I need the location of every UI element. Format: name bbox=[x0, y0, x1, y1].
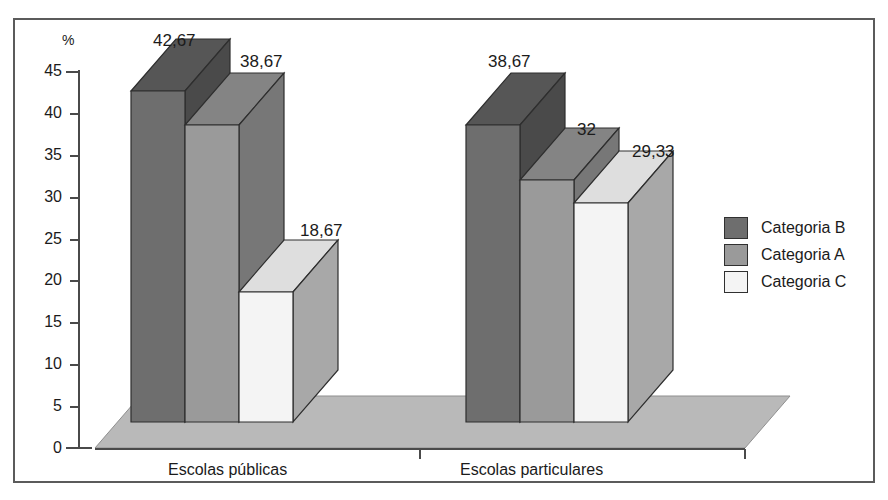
bar-group2-categoria-c bbox=[574, 151, 673, 422]
y-tick-label-0: 0 bbox=[28, 440, 62, 456]
y-tick-label-10: 10 bbox=[28, 356, 62, 372]
y-tick-label-5: 5 bbox=[28, 398, 62, 414]
y-tick-label-30: 30 bbox=[28, 189, 62, 205]
legend-label-categoria-b: Categoria B bbox=[761, 219, 846, 237]
y-tick-label-45: 45 bbox=[28, 63, 62, 79]
y-tick-label-40: 40 bbox=[28, 105, 62, 121]
legend-swatch-categoria-a-icon bbox=[724, 244, 748, 266]
value-label-group2-categoria-a: 32 bbox=[577, 121, 596, 138]
legend-item-categoria-b[interactable]: Categoria B bbox=[724, 215, 846, 241]
y-axis bbox=[66, 70, 92, 449]
legend-label-categoria-a: Categoria A bbox=[761, 246, 845, 264]
legend-item-categoria-a[interactable]: Categoria A bbox=[724, 242, 846, 268]
y-tick-label-15: 15 bbox=[28, 314, 62, 330]
value-label-group2-categoria-b: 38,67 bbox=[488, 53, 531, 70]
y-tick-label-25: 25 bbox=[28, 231, 62, 247]
legend-item-categoria-c[interactable]: Categoria C bbox=[724, 269, 846, 295]
y-tick-label-35: 35 bbox=[28, 147, 62, 163]
legend-swatch-categoria-c-icon bbox=[724, 271, 748, 293]
legend-label-categoria-c: Categoria C bbox=[761, 273, 846, 291]
value-label-group1-categoria-c: 18,67 bbox=[300, 222, 343, 239]
value-label-group2-categoria-c: 29,33 bbox=[632, 143, 675, 160]
chart-container: % 45 40 35 30 25 20 15 10 5 0 42,67 38,6… bbox=[0, 0, 888, 500]
legend-swatch-categoria-b-icon bbox=[724, 217, 748, 239]
x-axis-label-escolas-publicas: Escolas públicas bbox=[168, 462, 287, 478]
y-tick-label-20: 20 bbox=[28, 272, 62, 288]
y-axis-unit-label: % bbox=[62, 33, 74, 47]
chart-legend: Categoria B Categoria A Categoria C bbox=[724, 215, 846, 296]
x-axis-label-escolas-particulares: Escolas particulares bbox=[460, 462, 603, 478]
value-label-group1-categoria-b: 42,67 bbox=[153, 32, 196, 49]
x-axis bbox=[95, 449, 745, 459]
value-label-group1-categoria-a: 38,67 bbox=[240, 53, 283, 70]
